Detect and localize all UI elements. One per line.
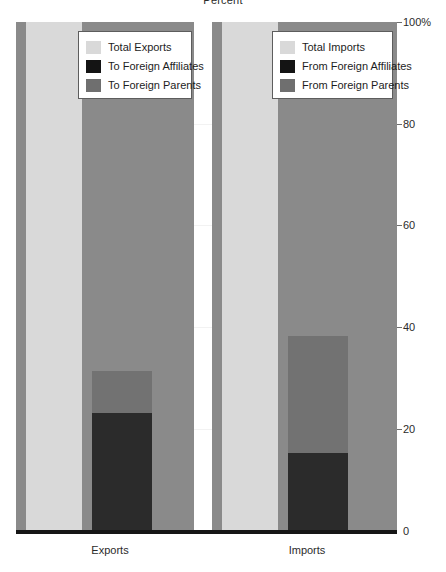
legend-item-to-foreign-affiliates: To Foreign Affiliates — [86, 57, 183, 76]
chart-figure: Percent 100% 8 — [0, 0, 446, 572]
bar-total-exports — [26, 22, 82, 531]
tick-mark-60 — [397, 225, 402, 226]
legend-item-total-exports: Total Exports — [86, 38, 183, 57]
axis-baseline — [16, 530, 397, 534]
legend-imports: Total Imports From Foreign Affiliates Fr… — [272, 31, 393, 99]
legend-label-total-imports: Total Imports — [302, 41, 365, 54]
legend-item-from-foreign-parents: From Foreign Parents — [280, 76, 384, 95]
bar-total-imports — [222, 22, 278, 531]
tick-mark-80 — [397, 124, 402, 125]
y-axis-label-80: 80 — [403, 119, 415, 130]
legend-label-from-foreign-parents: From Foreign Parents — [302, 79, 409, 92]
y-axis-label-0: 0 — [403, 526, 409, 537]
legend-item-to-foreign-parents: To Foreign Parents — [86, 76, 183, 95]
tick-mark-20 — [397, 429, 402, 430]
panel-imports-edge-strip — [212, 22, 222, 531]
legend-swatch-affiliates-icon — [86, 60, 101, 73]
legend-item-total-imports: Total Imports — [280, 38, 384, 57]
legend-swatch-parents-icon — [86, 79, 101, 92]
legend-label-total-exports: Total Exports — [108, 41, 172, 54]
legend-swatch-affiliates-icon — [280, 60, 295, 73]
legend-swatch-parents-icon — [280, 79, 295, 92]
tick-mark-40 — [397, 327, 402, 328]
bar-to-foreign-affiliates — [92, 413, 152, 531]
legend-swatch-total-icon — [280, 41, 295, 54]
y-axis-label-100: 100% — [403, 17, 431, 28]
legend-label-to-foreign-parents: To Foreign Parents — [108, 79, 201, 92]
y-axis-label-60: 60 — [403, 220, 415, 231]
chart-title: Percent — [0, 0, 446, 7]
legend-label-from-foreign-affiliates: From Foreign Affiliates — [302, 60, 412, 73]
legend-item-from-foreign-affiliates: From Foreign Affiliates — [280, 57, 384, 76]
tick-mark-100 — [397, 22, 402, 23]
legend-label-to-foreign-affiliates: To Foreign Affiliates — [108, 60, 204, 73]
x-axis-label-exports: Exports — [70, 545, 150, 556]
y-axis-label-20: 20 — [403, 424, 415, 435]
bar-from-foreign-affiliates — [288, 453, 348, 531]
legend-swatch-total-icon — [86, 41, 101, 54]
y-axis-label-40: 40 — [403, 322, 415, 333]
panel-exports-edge-strip — [16, 22, 26, 531]
legend-exports: Total Exports To Foreign Affiliates To F… — [78, 31, 192, 99]
x-axis-label-imports: Imports — [267, 545, 347, 556]
